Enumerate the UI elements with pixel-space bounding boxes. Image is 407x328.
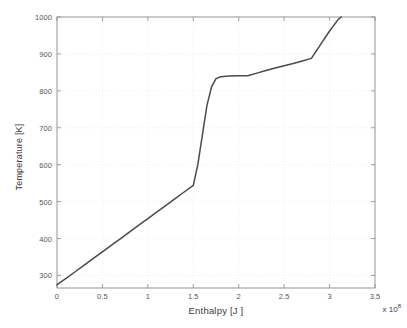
x-tick-label: 0.5 bbox=[97, 292, 108, 301]
y-tick-label: 700 bbox=[20, 123, 52, 132]
x-tick-label: 3.5 bbox=[370, 292, 381, 301]
plot-canvas bbox=[0, 0, 407, 328]
y-tick-label: 600 bbox=[20, 160, 52, 169]
grid-lines bbox=[57, 17, 375, 288]
x-tick-label: 2 bbox=[237, 292, 241, 301]
x-tick-label: 0 bbox=[55, 292, 59, 301]
x-tick-label: 2.5 bbox=[279, 292, 290, 301]
axes-frame bbox=[57, 17, 375, 288]
x-axis-multiplier: x 108 bbox=[383, 305, 401, 314]
y-tick-label: 500 bbox=[20, 197, 52, 206]
x-axis-label: Enthalpy [J ] bbox=[57, 305, 375, 316]
multiplier-base: x 10 bbox=[383, 305, 398, 314]
y-tick-label: 400 bbox=[20, 234, 52, 243]
y-tick-label: 800 bbox=[20, 86, 52, 95]
x-tick-label: 1.5 bbox=[188, 292, 199, 301]
data-series bbox=[57, 17, 341, 285]
y-tick-label: 900 bbox=[20, 49, 52, 58]
axis-frame bbox=[57, 17, 375, 288]
x-tick-label: 3 bbox=[327, 292, 331, 301]
chart-figure: 300400500600700800900100000.511.522.533.… bbox=[0, 0, 407, 328]
series-line bbox=[57, 17, 341, 285]
y-tick-label: 300 bbox=[20, 271, 52, 280]
multiplier-exponent: 8 bbox=[398, 303, 401, 309]
tick-marks bbox=[57, 17, 375, 288]
y-tick-label: 1000 bbox=[20, 13, 52, 22]
x-tick-label: 1 bbox=[146, 292, 150, 301]
y-axis-label: Temperature [K] bbox=[14, 92, 24, 222]
